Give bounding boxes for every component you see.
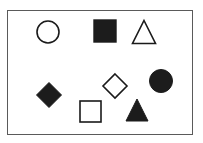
figure-canvas [0, 0, 203, 143]
outer-rectangle-border [7, 10, 193, 135]
